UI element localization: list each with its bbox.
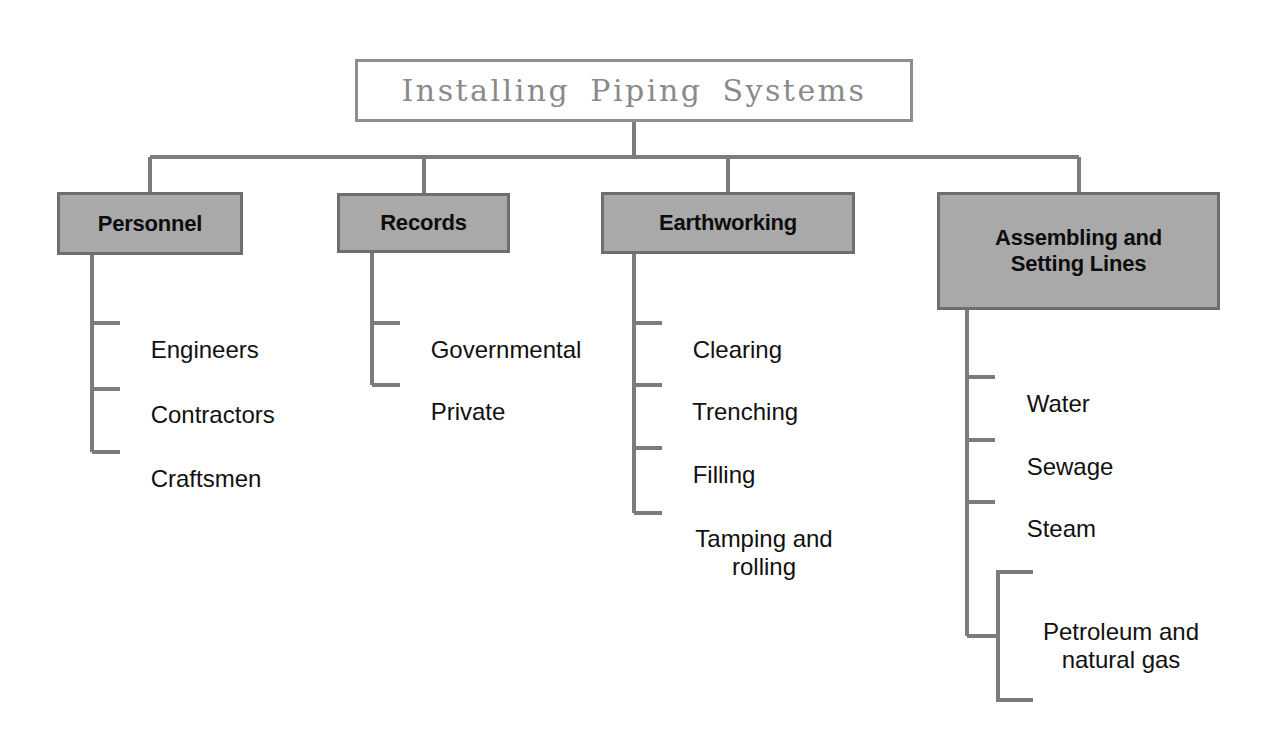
leaf-label-petroleum-and-natural-gas: Petroleum and natural gas	[1043, 618, 1199, 673]
leaf-steam[interactable]: Steam	[1000, 487, 1096, 570]
category-box-records[interactable]: Records	[337, 193, 510, 253]
leaf-label-filling: Filling	[693, 461, 756, 488]
category-label-records: Records	[380, 210, 467, 236]
leaf-petroleum-and-natural-gas[interactable]: Petroleum and natural gas	[1016, 590, 1226, 673]
category-label-personnel: Personnel	[98, 211, 203, 237]
leaf-tamping-and-rolling[interactable]: Tamping and rolling	[666, 497, 862, 580]
leaf-label-tamping-and-rolling: Tamping and rolling	[695, 525, 832, 580]
root-title-label: Installing Piping Systems	[401, 73, 866, 108]
category-box-personnel[interactable]: Personnel	[57, 192, 243, 255]
leaf-private[interactable]: Private	[404, 370, 505, 453]
root-title-box: Installing Piping Systems	[355, 59, 913, 122]
leaf-label-clearing: Clearing	[693, 336, 782, 363]
leaf-craftsmen[interactable]: Craftsmen	[124, 437, 261, 520]
leaf-label-sewage: Sewage	[1027, 453, 1114, 480]
leaf-label-trenching: Trenching	[692, 398, 798, 425]
leaf-label-water: Water	[1027, 390, 1090, 417]
leaf-label-governmental: Governmental	[431, 336, 582, 363]
leaf-label-private: Private	[431, 398, 506, 425]
leaf-label-craftsmen: Craftsmen	[151, 465, 262, 492]
leaf-label-contractors: Contractors	[151, 401, 275, 428]
leaf-label-steam: Steam	[1027, 515, 1096, 542]
category-box-assembling-and-setting-lines[interactable]: Assembling and Setting Lines	[937, 192, 1220, 310]
category-label-assembling-and-setting-lines: Assembling and Setting Lines	[995, 225, 1162, 277]
org-chart-diagram: Installing Piping Systems Personnel Reco…	[0, 0, 1287, 742]
category-label-earthworking: Earthworking	[659, 210, 797, 236]
leaf-label-engineers: Engineers	[151, 336, 259, 363]
category-box-earthworking[interactable]: Earthworking	[601, 192, 855, 254]
